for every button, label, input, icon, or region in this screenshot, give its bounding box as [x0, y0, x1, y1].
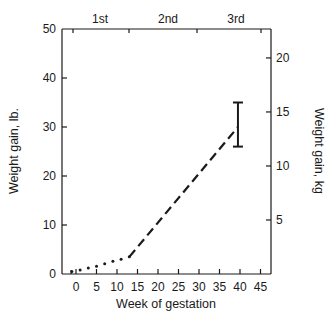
- left-axis-ticks: 01020304050: [43, 22, 67, 281]
- top-axis-ticks: 1st2nd3rd: [73, 12, 261, 33]
- y-tick-label: 50: [43, 22, 57, 36]
- data-point-dot: [95, 265, 98, 268]
- y-tick-label: 40: [43, 71, 57, 85]
- x-axis-title: Week of gestation: [116, 297, 216, 311]
- y2-tick-label: 15: [276, 105, 290, 119]
- y-tick-label: 0: [49, 267, 56, 281]
- y-tick-label: 20: [43, 169, 57, 183]
- x-tick-label: 20: [151, 280, 165, 294]
- data-point-dot: [79, 269, 82, 272]
- x-tick-label: 10: [110, 280, 124, 294]
- y-axis-title: Weight gain, lb.: [7, 108, 21, 194]
- x-tick-label: 25: [172, 280, 186, 294]
- data-point-dot: [87, 267, 90, 270]
- trimester-label: 1st: [92, 12, 109, 26]
- y2-tick-label: 20: [276, 51, 290, 65]
- bottom-axis-ticks: 051015202530354045: [71, 269, 267, 294]
- x-tick-label: 15: [131, 280, 145, 294]
- data-series: [70, 127, 238, 273]
- trimester-label: 3rd: [227, 12, 244, 26]
- y2-tick-label: 5: [276, 213, 283, 227]
- data-point-dot: [103, 262, 106, 265]
- data-point-dot: [120, 258, 123, 261]
- x-tick-label: 0: [73, 280, 80, 294]
- error-bar: [233, 103, 243, 147]
- plot-frame: [62, 29, 271, 274]
- y-tick-label: 10: [43, 218, 57, 232]
- y2-axis-title: Weight gain, kg: [312, 108, 326, 194]
- right-axis-ticks: 5101520: [266, 51, 290, 227]
- x-tick-label: 40: [233, 280, 247, 294]
- data-point-dot: [111, 260, 114, 263]
- x-tick-label: 30: [192, 280, 206, 294]
- weight-gain-chart: 01020304050 5101520 051015202530354045 1…: [0, 0, 328, 326]
- y2-tick-label: 10: [276, 159, 290, 173]
- dashed-trend-line: [129, 127, 238, 257]
- y-tick-label: 30: [43, 120, 57, 134]
- trimester-label: 2nd: [158, 12, 178, 26]
- data-point-dot: [70, 270, 73, 273]
- x-tick-label: 5: [93, 280, 100, 294]
- x-tick-label: 35: [213, 280, 227, 294]
- x-tick-label: 45: [254, 280, 268, 294]
